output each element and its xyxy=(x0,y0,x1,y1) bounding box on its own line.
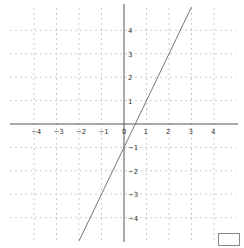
x-tick-labels: −4−3−2−101234 xyxy=(31,128,216,136)
y-tick-label: −1 xyxy=(128,144,138,152)
x-tick-label: 1 xyxy=(144,128,148,136)
x-tick-label: −4 xyxy=(31,128,42,136)
answer-input-box[interactable] xyxy=(218,233,240,246)
y-tick-label: 2 xyxy=(128,74,132,82)
x-tick-label: −1 xyxy=(99,128,109,136)
y-tick-label: −3 xyxy=(128,191,138,199)
x-tick-label: −3 xyxy=(54,128,64,136)
y-tick-label: 4 xyxy=(128,27,133,35)
coordinate-plane: −4−3−2−101234 −4−3−2−11234 xyxy=(0,0,244,248)
y-tick-label: −4 xyxy=(128,215,139,223)
y-tick-label: −2 xyxy=(128,168,138,176)
y-tick-labels: −4−3−2−11234 xyxy=(128,27,139,222)
y-tick-label: 3 xyxy=(128,51,132,59)
x-tick-label: −2 xyxy=(76,128,86,136)
axes xyxy=(10,4,238,242)
x-tick-label: 0 xyxy=(122,128,126,136)
x-tick-label: 3 xyxy=(189,128,193,136)
x-tick-label: 4 xyxy=(211,128,216,136)
x-tick-label: 2 xyxy=(166,128,170,136)
y-tick-label: 1 xyxy=(128,98,132,106)
